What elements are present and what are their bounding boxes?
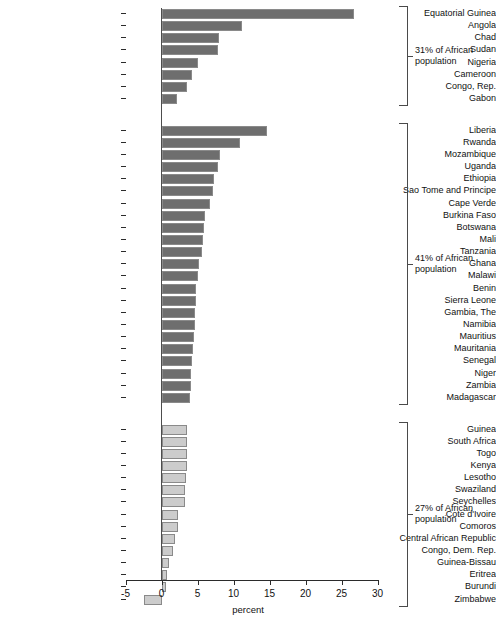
category-tick — [121, 154, 126, 155]
bar — [162, 58, 198, 68]
bar — [162, 284, 197, 294]
x-tick — [198, 580, 199, 585]
x-tick-label: 0 — [147, 588, 177, 599]
x-tick — [306, 580, 307, 585]
bar — [162, 174, 215, 184]
bar — [162, 21, 243, 31]
x-axis-title: percent — [0, 604, 496, 615]
bar — [162, 510, 179, 520]
bar — [162, 150, 220, 160]
category-label: Rwanda — [378, 136, 496, 148]
category-label: Botswana — [378, 221, 496, 233]
category-label: Chad — [378, 31, 496, 43]
category-tick — [121, 86, 126, 87]
bar — [162, 369, 192, 379]
category-tick — [121, 538, 126, 539]
category-tick — [121, 429, 126, 430]
bar — [162, 94, 177, 104]
category-label: Guinea-Bissau — [378, 556, 496, 568]
bar — [162, 199, 210, 209]
bar — [162, 296, 197, 306]
category-label: Central African Republic — [378, 532, 496, 544]
category-tick — [121, 215, 126, 216]
bar — [162, 437, 188, 447]
x-tick-label: 20 — [291, 588, 321, 599]
category-label: Sao Tome and Principe — [378, 184, 496, 196]
group-annotation: 41% of African population — [415, 253, 493, 275]
bar — [162, 247, 202, 257]
category-label: Benin — [378, 282, 496, 294]
category-tick — [121, 562, 126, 563]
category-tick — [121, 373, 126, 374]
x-tick-label: 30 — [363, 588, 393, 599]
category-label: Uganda — [378, 160, 496, 172]
bar — [162, 162, 219, 172]
category-label: Ethiopia — [378, 172, 496, 184]
category-tick — [121, 550, 126, 551]
bar — [162, 259, 199, 269]
bar — [162, 522, 179, 532]
category-label: Zimbabwe — [378, 593, 496, 605]
group-bracket — [399, 6, 408, 106]
category-label: Burundi — [378, 580, 496, 592]
category-tick — [121, 25, 126, 26]
group-annotation: 27% of African population — [415, 503, 493, 525]
category-tick — [121, 251, 126, 252]
category-tick — [121, 203, 126, 204]
x-tick-label: -5 — [111, 588, 141, 599]
category-tick — [121, 130, 126, 131]
category-tick — [121, 397, 126, 398]
category-tick — [121, 336, 126, 337]
x-tick-label: 15 — [255, 588, 285, 599]
category-label: Gabon — [378, 92, 496, 104]
category-label: Eritrea — [378, 568, 496, 580]
bar — [162, 235, 203, 245]
category-tick — [121, 489, 126, 490]
category-label: Mali — [378, 233, 496, 245]
bar — [162, 45, 218, 55]
bar — [162, 425, 188, 435]
category-label: Congo, Dem. Rep. — [378, 544, 496, 556]
x-tick — [126, 580, 127, 585]
bar — [162, 332, 194, 342]
category-label: Burkina Faso — [378, 209, 496, 221]
category-label: Togo — [378, 447, 496, 459]
category-tick — [121, 13, 126, 14]
category-label: Sierra Leone — [378, 294, 496, 306]
category-label: South Africa — [378, 435, 496, 447]
category-tick — [121, 142, 126, 143]
category-tick — [121, 275, 126, 276]
category-tick — [121, 239, 126, 240]
category-tick — [121, 385, 126, 386]
category-label: Namibia — [378, 318, 496, 330]
x-tick — [162, 580, 163, 585]
category-tick — [121, 477, 126, 478]
x-tick — [234, 580, 235, 585]
category-label: Congo, Rep. — [378, 80, 496, 92]
bar — [162, 534, 176, 544]
bar — [162, 473, 186, 483]
category-tick — [121, 74, 126, 75]
category-label: Guinea — [378, 423, 496, 435]
bar — [162, 223, 204, 233]
bar — [162, 356, 193, 366]
bar — [162, 570, 167, 580]
category-label: Mauritania — [378, 342, 496, 354]
x-tick — [342, 580, 343, 585]
category-label: Kenya — [378, 459, 496, 471]
category-tick — [121, 514, 126, 515]
category-tick — [121, 312, 126, 313]
bar — [162, 546, 174, 556]
category-tick — [121, 360, 126, 361]
category-label: Madagascar — [378, 391, 496, 403]
category-label: Zambia — [378, 379, 496, 391]
category-label: Cameroon — [378, 68, 496, 80]
bar — [162, 558, 170, 568]
category-tick — [121, 324, 126, 325]
category-label: Lesotho — [378, 471, 496, 483]
group-bracket — [399, 422, 408, 607]
bar — [162, 497, 185, 507]
bar — [162, 138, 240, 148]
category-label: Gambia, The — [378, 306, 496, 318]
bar — [162, 344, 194, 354]
